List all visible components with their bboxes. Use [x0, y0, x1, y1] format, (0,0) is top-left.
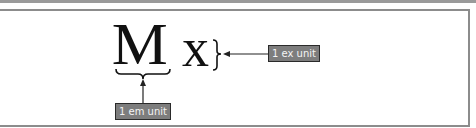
ex-arrowhead-icon — [223, 51, 230, 57]
annotation-lines — [0, 0, 476, 128]
em-unit-label: 1 em unit — [115, 103, 171, 120]
right-brace-icon — [213, 40, 221, 70]
em-arrowhead-icon — [140, 79, 146, 86]
underbrace-icon — [116, 69, 170, 79]
ex-unit-label: 1 ex unit — [268, 45, 320, 62]
